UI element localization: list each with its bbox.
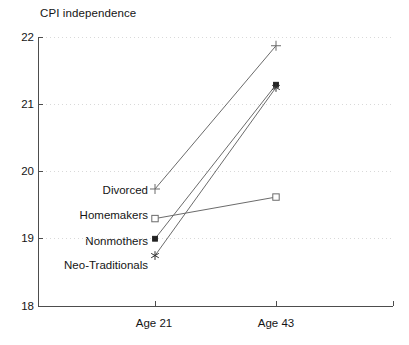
series-nonmothers	[153, 82, 279, 241]
series-lines-group	[150, 41, 281, 260]
cpi-independence-chart: CPI independence 22 21 20 19 18 Age 21 A…	[0, 0, 409, 345]
plot-area	[0, 0, 409, 345]
series-line	[155, 87, 276, 255]
series-line	[155, 46, 276, 189]
data-point-open-square-1	[273, 194, 279, 200]
data-point-filled-square-0	[153, 236, 158, 241]
data-point-open-square-0	[152, 215, 158, 221]
gridlines-group	[38, 37, 393, 239]
series-homemakers	[152, 194, 279, 222]
series-line	[155, 85, 276, 239]
